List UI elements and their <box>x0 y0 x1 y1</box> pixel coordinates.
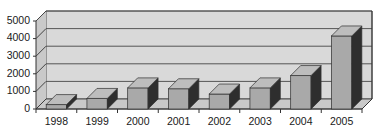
bar <box>291 66 321 109</box>
value-axis-tick-label: 5000 <box>7 14 31 26</box>
bar-chart: 010002000300040005000 199819992000200120… <box>0 0 381 134</box>
bar-front-face <box>87 98 107 109</box>
category-axis-tick-label: 2005 <box>330 115 354 127</box>
bar-front-face <box>128 88 148 109</box>
value-axis-tick-label: 4000 <box>7 31 31 43</box>
bar-side-face <box>352 26 362 109</box>
bar-front-face <box>168 89 188 109</box>
category-axis-tick-label: 1999 <box>85 115 109 127</box>
value-axis-tick-label: 1000 <box>7 84 31 96</box>
category-axis-tick-label: 2003 <box>248 115 272 127</box>
plot-floor <box>36 99 372 109</box>
bar <box>331 26 361 109</box>
bar-front-face <box>209 94 229 109</box>
value-axis-tick-label: 3000 <box>7 49 31 61</box>
bar-front-face <box>331 36 351 109</box>
category-axis-tick-label: 2002 <box>208 115 232 127</box>
plot-left-wall <box>36 11 46 109</box>
category-axis-ticks <box>36 109 362 113</box>
chart-canvas: 010002000300040005000 199819992000200120… <box>0 0 381 134</box>
category-axis-tick-label: 2004 <box>289 115 313 127</box>
value-axis-labels: 010002000300040005000 <box>7 14 31 114</box>
bar-front-face <box>250 88 270 109</box>
plot-back-wall <box>46 11 372 99</box>
category-axis-labels: 19981999200020012002200320042005 <box>45 115 354 127</box>
value-axis-tick-label: 2000 <box>7 67 31 79</box>
category-axis-tick-label: 1998 <box>45 115 69 127</box>
value-axis-tick-label: 0 <box>24 102 30 114</box>
category-axis-tick-label: 2001 <box>167 115 191 127</box>
category-axis-tick-label: 2000 <box>126 115 150 127</box>
bar-front-face <box>291 76 311 109</box>
bar-front-face <box>46 105 66 109</box>
